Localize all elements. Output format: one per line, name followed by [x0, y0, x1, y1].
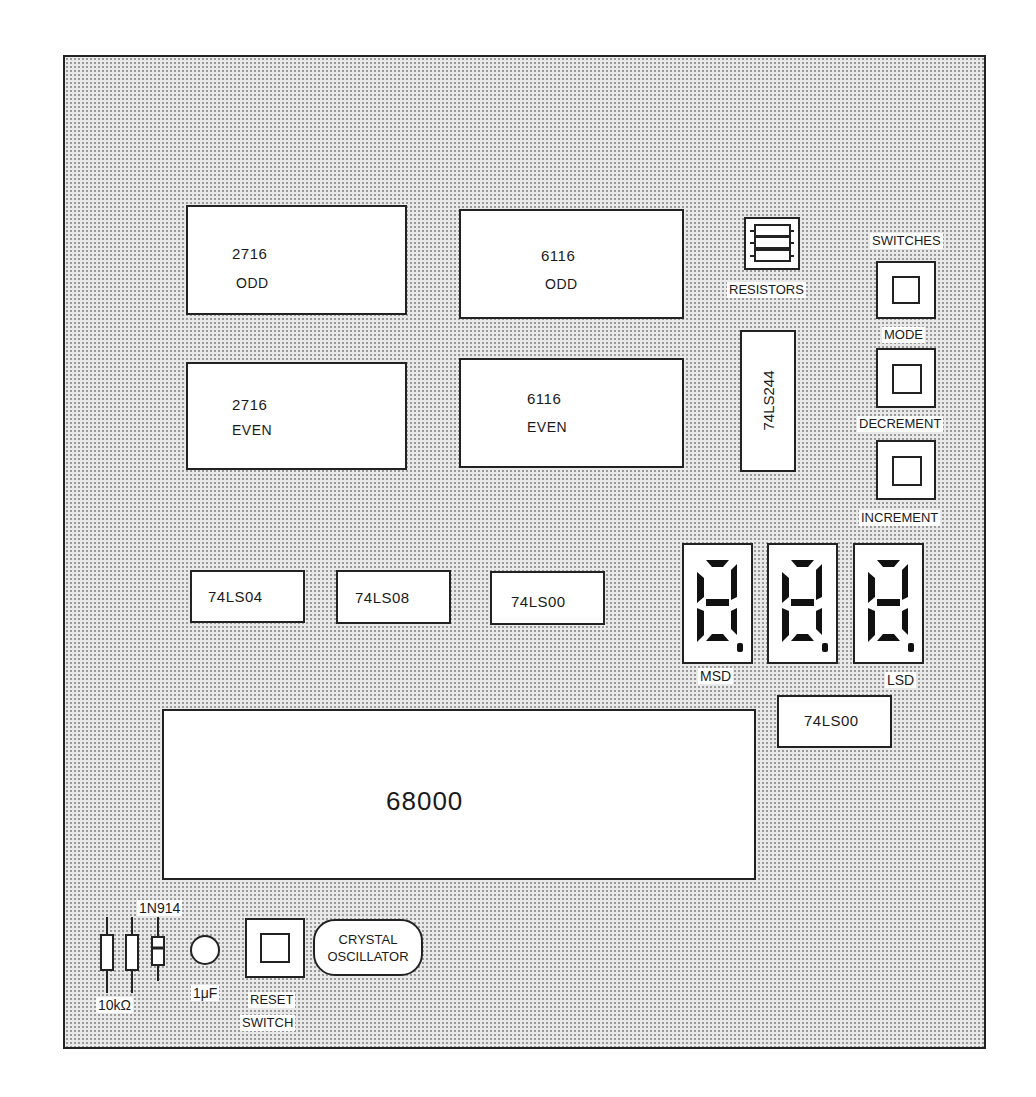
- switch-button-icon: [892, 456, 922, 486]
- chip-part: 74LS08: [355, 589, 410, 606]
- chip-bank: EVEN: [527, 419, 567, 435]
- reset-label: RESET: [248, 992, 295, 1008]
- cpu-68000: 68000: [162, 709, 756, 880]
- seven-segment-digit-middle: [767, 543, 838, 664]
- chip-part: 68000: [386, 786, 463, 817]
- crystal-oscillator: CRYSTAL OSCILLATOR: [313, 919, 423, 976]
- chip-part: 2716: [232, 245, 267, 262]
- seven-segment-icon: [855, 545, 922, 662]
- passive-components-icon: [95, 915, 185, 995]
- chip-part: 6116: [541, 247, 575, 264]
- resistors-label: RESISTORS: [727, 282, 806, 298]
- mode-switch[interactable]: [876, 261, 936, 319]
- logic-74ls08: 74LS08: [336, 570, 451, 624]
- chip-bank: ODD: [545, 276, 578, 292]
- oscillator-label-1: CRYSTAL: [315, 931, 421, 948]
- chip-bank: EVEN: [232, 422, 272, 438]
- switch-label: SWITCH: [240, 1015, 295, 1031]
- increment-switch[interactable]: [876, 440, 936, 500]
- switch-button-icon: [892, 364, 922, 394]
- eprom-2716-odd: 2716 ODD: [186, 205, 407, 315]
- ram-6116-even: 6116 EVEN: [459, 358, 684, 468]
- switch-button-icon: [892, 276, 920, 304]
- switches-title: SWITCHES: [870, 233, 943, 249]
- buffer-74ls244: 74LS244: [740, 330, 796, 472]
- oscillator-label-2: OSCILLATOR: [315, 948, 421, 965]
- chip-part: 74LS00: [511, 593, 566, 610]
- capacitor: [190, 935, 220, 965]
- decrement-switch-label: DECREMENT: [857, 416, 943, 432]
- chip-bank: ODD: [236, 275, 269, 291]
- display-driver-74ls00: 74LS00: [777, 695, 892, 748]
- resistor-value-label: 10kΩ: [96, 997, 133, 1013]
- resistor-array-icon: [746, 219, 798, 268]
- seven-segment-icon: [769, 545, 836, 662]
- chip-part: 2716: [232, 396, 267, 413]
- msd-label: MSD: [698, 668, 733, 684]
- logic-74ls00: 74LS00: [490, 571, 605, 625]
- chip-part: 74LS04: [208, 588, 263, 605]
- chip-part: 6116: [527, 390, 561, 407]
- chip-part: 74LS244: [760, 367, 777, 435]
- seven-segment-digit-lsd: [853, 543, 924, 664]
- seven-segment-icon: [684, 545, 751, 662]
- mode-switch-label: MODE: [882, 327, 925, 343]
- resistor-network: [744, 217, 800, 270]
- diode-label: 1N914: [137, 900, 182, 916]
- seven-segment-digit-msd: [682, 543, 753, 664]
- logic-74ls04: 74LS04: [190, 570, 305, 623]
- increment-switch-label: INCREMENT: [859, 510, 940, 526]
- switch-button-icon: [260, 933, 290, 963]
- decrement-switch[interactable]: [876, 348, 936, 408]
- capacitor-value-label: 1μF: [191, 985, 219, 1001]
- eprom-2716-even: 2716 EVEN: [186, 362, 407, 470]
- lsd-label: LSD: [885, 672, 916, 688]
- reset-switch[interactable]: [245, 918, 305, 978]
- ram-6116-odd: 6116 ODD: [459, 209, 684, 319]
- chip-part: 74LS00: [804, 712, 859, 729]
